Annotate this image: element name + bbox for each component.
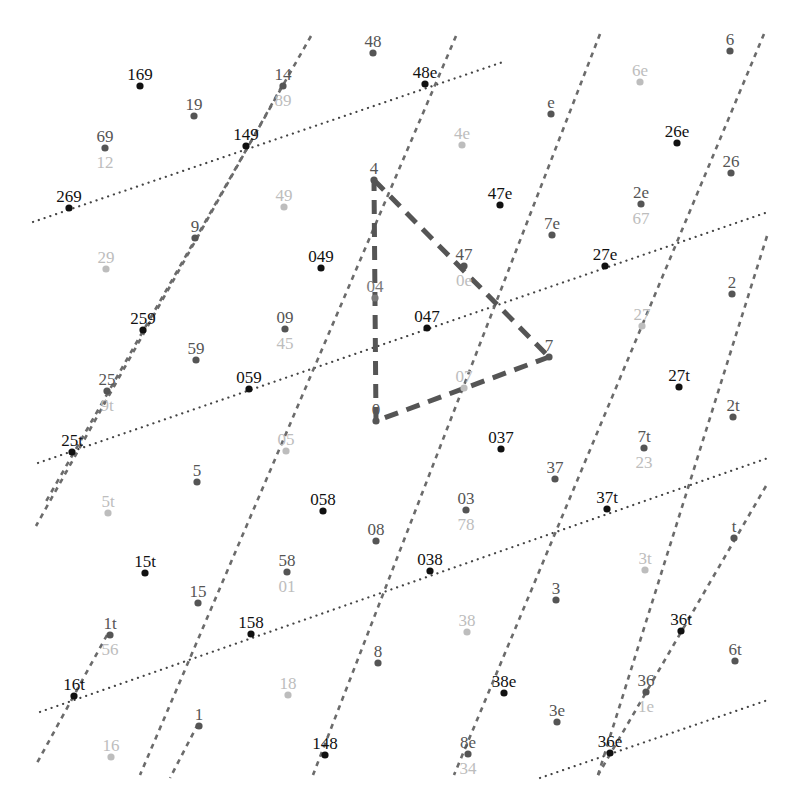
- point-label: 38: [459, 611, 476, 630]
- lattice-point: 14: [275, 65, 293, 90]
- lattice-point: 6: [726, 30, 735, 55]
- point-label: 37t: [596, 488, 618, 507]
- lattice-point: 3e: [549, 701, 565, 726]
- point-label: 9t: [100, 396, 114, 415]
- point-label: 058: [310, 490, 336, 509]
- lattice-point: 48e: [413, 63, 438, 88]
- lattice-point: t: [730, 517, 737, 542]
- lattice-point: 34: [460, 759, 478, 778]
- lattice-point: 7: [545, 336, 554, 361]
- lattice-point: 09: [277, 308, 294, 333]
- lattice-point: 36t: [670, 610, 692, 635]
- lattice-point: 27e: [593, 245, 618, 270]
- point-label: 149: [233, 125, 259, 144]
- dotted-line: [38, 212, 768, 463]
- dashed-line: [140, 36, 456, 775]
- point-label: 7: [545, 336, 554, 355]
- point-label: 89: [275, 91, 292, 110]
- point-label: 049: [308, 247, 334, 266]
- lattice-point: 49: [276, 186, 293, 211]
- lattice-point: 27: [634, 305, 652, 330]
- lattice-point: 0: [372, 400, 381, 425]
- lattice-point: 78: [458, 515, 475, 534]
- point-label: 269: [56, 187, 82, 206]
- lattice-point: 69: [97, 127, 114, 152]
- point-label: 25t: [61, 431, 83, 450]
- lattice-point: 25t: [61, 431, 83, 456]
- lattice-point: 7t: [637, 427, 651, 452]
- point-label: 09: [277, 308, 294, 327]
- point-label: 47: [456, 245, 474, 264]
- point-label: 47e: [488, 184, 513, 203]
- lattice-point: 89: [275, 91, 292, 110]
- dotted-line: [40, 458, 768, 712]
- lattice-point: 5: [193, 461, 202, 486]
- point-label: 259: [130, 309, 156, 328]
- point-label: 56: [102, 640, 119, 659]
- lattice-point: 049: [308, 247, 334, 272]
- lattice-point: 45: [277, 334, 294, 353]
- lattice-point: 58: [279, 551, 296, 576]
- point-label: 36t: [670, 610, 692, 629]
- point-label: 78: [458, 515, 475, 534]
- point-label: 2e: [633, 183, 649, 202]
- lattice-point: 19: [186, 95, 203, 120]
- point-label: 038: [417, 550, 443, 569]
- lattice-point: 2t: [726, 396, 740, 421]
- point-label: 38e: [492, 672, 517, 691]
- lattice-point: 169: [127, 65, 153, 90]
- lattice-point: 47e: [488, 184, 513, 209]
- lattice-point: 29: [98, 248, 115, 273]
- dashed-lattice-lines: [36, 34, 767, 778]
- point-label: 2: [728, 273, 737, 292]
- lattice-point: 25: [99, 370, 116, 395]
- lattice-point: 67: [633, 209, 651, 228]
- lattice-point: 158: [238, 613, 264, 638]
- dashed-line: [598, 236, 767, 775]
- lattice-point: 48: [365, 32, 382, 57]
- point-label: 25: [99, 370, 116, 389]
- lattice-point: 037: [488, 428, 514, 453]
- lattice-point: 4e: [454, 124, 470, 149]
- lattice-point: 37t: [596, 488, 618, 513]
- point-label: 5: [193, 461, 202, 480]
- lattice-point: 1t: [103, 614, 117, 639]
- point-label: 8: [374, 642, 383, 661]
- lattice-point: 18: [280, 674, 297, 699]
- lattice-point: 27t: [668, 366, 690, 391]
- point-label: 14: [275, 65, 293, 84]
- lattice-point: 2: [728, 273, 737, 298]
- dashed-line: [454, 34, 764, 775]
- point-label: 1t: [103, 614, 117, 633]
- point-label: 18: [280, 674, 297, 693]
- point-label: 26e: [665, 122, 690, 141]
- point-label: 07: [456, 367, 474, 386]
- point-label: e: [547, 93, 555, 112]
- point-label: 48e: [413, 63, 438, 82]
- point-label: 58: [279, 551, 296, 570]
- lattice-point: e: [547, 93, 555, 118]
- point-label: 08: [368, 520, 385, 539]
- lattice-point: 07: [456, 367, 474, 392]
- point-label: 7e: [544, 214, 560, 233]
- lattice-point: 6t: [728, 640, 742, 665]
- point-label: 34: [460, 759, 478, 778]
- lattice-point: 04: [367, 277, 385, 302]
- point-label: 69: [97, 127, 114, 146]
- lattice-point: 149: [233, 125, 259, 150]
- lattice-point: 8: [374, 642, 383, 667]
- lattice-point: 23: [636, 453, 653, 472]
- lattice-point: 3t: [638, 549, 652, 574]
- point-label: 037: [488, 428, 514, 447]
- lattice-point: 15t: [134, 552, 156, 577]
- lattice-point: 56: [102, 640, 119, 659]
- lattice-point: 1e: [638, 697, 654, 716]
- point-label: 15t: [134, 552, 156, 571]
- dashed-line: [36, 86, 282, 526]
- lattice-point: 59: [188, 339, 205, 364]
- point-label: 59: [188, 339, 205, 358]
- lattice-point: 36: [638, 671, 655, 696]
- point-label: 4: [370, 159, 379, 178]
- lattice-point: 259: [130, 309, 156, 334]
- lattice-point: 7e: [544, 214, 560, 239]
